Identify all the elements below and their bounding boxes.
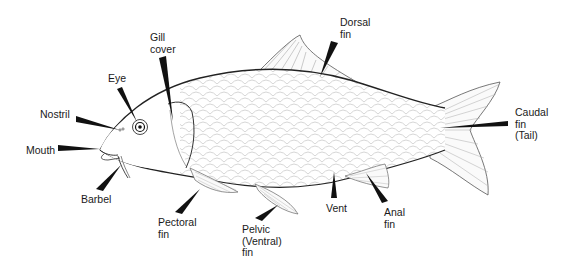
label-nostril: Nostril [40,109,70,121]
label-barbel: Barbel [81,194,111,206]
leader-barbel [96,165,121,191]
label-gill-cover: Gill cover [150,32,176,55]
leader-pelvic [255,205,278,221]
leader-pectoral [175,189,200,214]
label-pelvic-fin: Pelvic (Ventral) fin [242,224,282,259]
label-caudal-fin: Caudal fin (Tail) [515,107,548,142]
label-eye: Eye [108,73,126,85]
fish-illustration [0,0,570,264]
label-dorsal-fin: Dorsal fin [340,17,370,40]
label-anal-fin: Anal fin [384,207,405,230]
fish-anatomy-diagram: Dorsal fin Gill cover Eye Nostril Mouth … [0,0,570,264]
leader-nostril [76,116,120,130]
label-pectoral-fin: Pectoral fin [158,217,197,240]
label-mouth: Mouth [26,145,55,157]
label-vent: Vent [326,203,347,215]
leader-mouth [58,145,100,151]
pelvic-fin-shape [255,184,298,214]
